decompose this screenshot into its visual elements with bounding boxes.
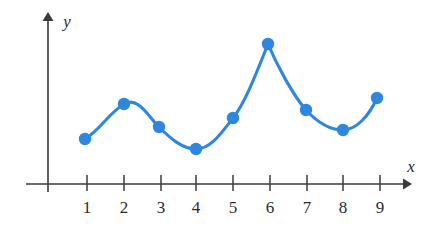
y-axis-label: y — [61, 12, 71, 31]
x-axis-arrow-icon — [403, 179, 412, 190]
x-tick-label-3: 3 — [157, 198, 166, 217]
x-tick-label-6: 6 — [266, 198, 275, 217]
x-tick-label-9: 9 — [376, 198, 385, 217]
plot-svg: 1 2 3 4 5 6 7 8 9 x y — [0, 0, 436, 234]
data-point — [371, 92, 383, 104]
data-point — [118, 98, 130, 110]
x-tick-label-2: 2 — [120, 198, 129, 217]
x-tick-label-5: 5 — [229, 198, 238, 217]
y-axis-arrow-icon — [43, 12, 54, 21]
data-point — [300, 104, 312, 116]
data-point-group — [79, 38, 383, 155]
data-curve — [85, 44, 377, 149]
x-axis-label: x — [406, 157, 415, 176]
x-tick-label-7: 7 — [303, 198, 312, 217]
data-point — [337, 124, 349, 136]
data-point — [190, 143, 202, 155]
x-tick-label-8: 8 — [339, 198, 348, 217]
x-axis-tick-labels: 1 2 3 4 5 6 7 8 9 — [83, 198, 385, 217]
data-point — [262, 38, 274, 50]
x-axis-tick-marks — [87, 175, 380, 191]
x-tick-label-4: 4 — [192, 198, 201, 217]
data-point — [79, 133, 91, 145]
x-tick-label-1: 1 — [83, 198, 92, 217]
data-point — [227, 112, 239, 124]
math-figure: 1 2 3 4 5 6 7 8 9 x y — [0, 0, 436, 234]
data-point — [153, 121, 165, 133]
